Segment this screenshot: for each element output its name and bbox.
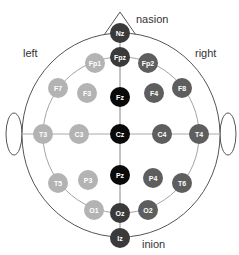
electrode-fp1: Fp1 — [85, 53, 105, 73]
electrode-c3: C3 — [69, 124, 89, 144]
electrode-label: Fp2 — [142, 60, 155, 68]
electrode-label: Nz — [116, 30, 125, 37]
electrode-oz: Oz — [110, 203, 130, 223]
right-ear — [220, 113, 236, 155]
electrode-label: Pz — [116, 172, 125, 179]
electrode-label: F4 — [150, 90, 158, 97]
electrode-nz: Nz — [110, 23, 130, 43]
electrode-label: F7 — [54, 85, 62, 92]
electrode-label: Fz — [116, 94, 124, 101]
electrode-p4: P4 — [143, 168, 163, 188]
electrode-t3: T3 — [33, 124, 53, 144]
inion-label: inion — [142, 238, 165, 250]
electrode-fpz: Fpz — [110, 47, 130, 67]
electrode-o1: O1 — [84, 200, 104, 220]
electrode-label: F3 — [83, 90, 91, 97]
electrode-t4: T4 — [189, 124, 209, 144]
electrode-label: Cz — [116, 131, 125, 138]
electrode-fp2: Fp2 — [138, 53, 158, 73]
right-label: right — [195, 47, 216, 59]
nasion-label: nasion — [136, 13, 168, 25]
electrode-pz: Pz — [110, 165, 130, 185]
left-ear — [6, 113, 22, 155]
electrode-label: O2 — [143, 207, 152, 214]
electrode-label: T3 — [39, 131, 47, 138]
electrode-label: C4 — [158, 131, 167, 138]
electrode-label: Fp1 — [89, 60, 102, 68]
electrode-label: T5 — [54, 180, 62, 187]
electrode-c4: C4 — [152, 124, 172, 144]
electrode-f3: F3 — [77, 83, 97, 103]
electrode-label: Iz — [117, 235, 123, 242]
electrode-t5: T5 — [48, 173, 68, 193]
electrode-fz: Fz — [110, 87, 130, 107]
electrode-iz: Iz — [110, 228, 130, 248]
electrode-label: F8 — [178, 85, 186, 92]
electrode-label: T4 — [195, 131, 203, 138]
electrode-label: T6 — [178, 180, 186, 187]
eeg-head-diagram: nasion inion left right NzFpzFzCzPzOzIzF… — [0, 0, 239, 255]
electrode-cz: Cz — [110, 124, 130, 144]
electrode-label: P3 — [84, 177, 93, 184]
electrode-label: P4 — [149, 175, 158, 182]
electrode-f8: F8 — [172, 78, 192, 98]
electrode-o2: O2 — [138, 200, 158, 220]
electrode-f4: F4 — [144, 83, 164, 103]
electrode-label: Oz — [116, 210, 125, 217]
electrode-p3: P3 — [78, 170, 98, 190]
electrode-label: C3 — [75, 131, 84, 138]
electrode-t6: T6 — [172, 173, 192, 193]
left-label: left — [23, 47, 38, 59]
electrode-f7: F7 — [48, 78, 68, 98]
electrode-label: Fpz — [114, 54, 127, 62]
electrode-label: O1 — [89, 207, 98, 214]
